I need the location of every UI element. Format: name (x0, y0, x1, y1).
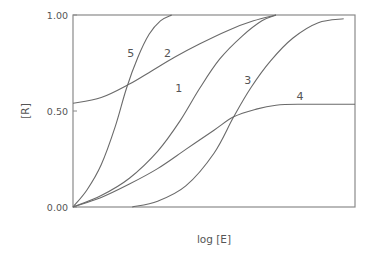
curve-labels: 12345 (127, 47, 303, 102)
curve-label-4: 4 (297, 90, 304, 103)
y-tick-label: 0.00 (47, 202, 68, 213)
x-axis-label: log [E] (197, 233, 231, 245)
y-tick-label: 0.50 (47, 106, 68, 117)
chart: 0.000.501.00 12345 log [E] [R] (0, 0, 368, 258)
y-axis-label: [R] (19, 103, 31, 119)
curve-1 (73, 15, 276, 207)
curve-label-1: 1 (175, 82, 182, 95)
curve-label-3: 3 (244, 74, 251, 87)
curve-label-2: 2 (164, 47, 171, 60)
curve-label-5: 5 (127, 47, 134, 60)
curve-4 (73, 104, 355, 207)
y-tick-label: 1.00 (47, 10, 68, 21)
curves (73, 15, 355, 207)
plot-frame (73, 15, 355, 207)
curve-5 (73, 15, 172, 207)
